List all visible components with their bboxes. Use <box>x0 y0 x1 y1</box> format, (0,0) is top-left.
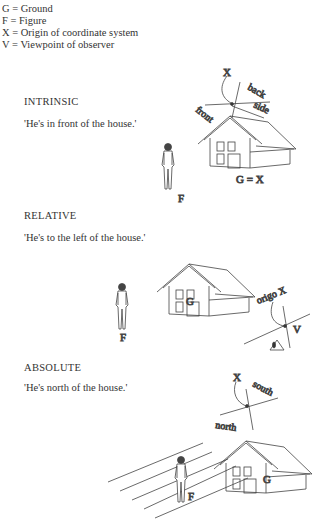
diagram-canvas: X back side front G = X F G F origo X V … <box>0 0 325 528</box>
absolute-ground-label: G <box>263 473 271 485</box>
absolute-diagram: X south north G F <box>108 371 312 518</box>
intrinsic-x-label: X <box>223 66 231 78</box>
intrinsic-front-label: front <box>194 104 216 125</box>
intrinsic-house-icon <box>198 116 296 168</box>
intrinsic-back-label: back <box>246 81 268 100</box>
intrinsic-side-label: side <box>252 99 272 116</box>
intrinsic-figure-label: F <box>178 192 184 204</box>
absolute-south-label: south <box>251 378 275 398</box>
relative-person-icon <box>116 284 128 330</box>
relative-diagram: G F origo X V <box>116 264 310 350</box>
eye-icon <box>270 340 284 350</box>
relative-viewpoint-label: V <box>293 323 301 335</box>
intrinsic-ground-label: G = X <box>236 173 264 185</box>
relative-house-icon <box>157 264 255 316</box>
absolute-figure-label: F <box>188 490 194 502</box>
intrinsic-diagram: X back side front G = X F <box>162 66 296 204</box>
absolute-house-icon <box>214 441 312 493</box>
absolute-north-label: north <box>215 419 237 433</box>
relative-ground-label: G <box>186 295 194 307</box>
relative-origo-label: origo X <box>255 284 288 306</box>
relative-figure-label: F <box>120 331 126 343</box>
absolute-x-label: X <box>233 371 241 383</box>
intrinsic-person-icon <box>162 144 174 190</box>
